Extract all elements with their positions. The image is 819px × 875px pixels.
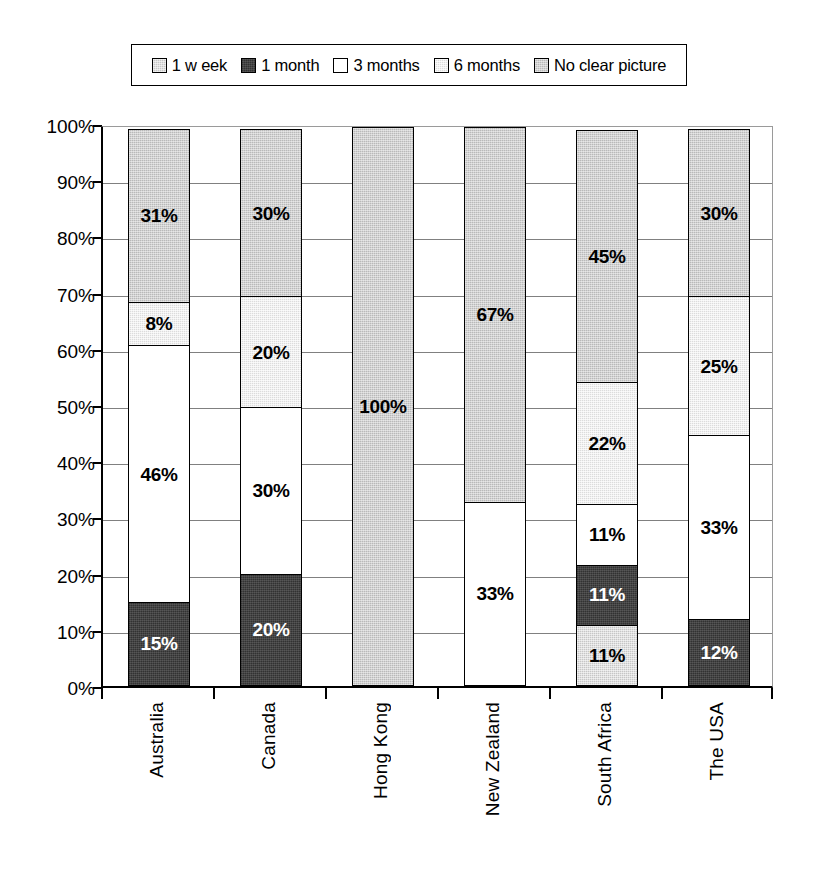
x-axis-tick-mark (549, 688, 551, 699)
legend-swatch-icon (333, 58, 348, 73)
bar-segment-value-label: 33% (700, 518, 737, 537)
x-axis-tick-mark (437, 688, 439, 699)
bar-segment[interactable]: 15% (128, 602, 190, 686)
x-axis-tick-mark (101, 688, 103, 699)
x-axis-tick-mark (771, 688, 773, 699)
bar-column-australia[interactable]: 15%46%8%31% (128, 127, 190, 686)
x-axis-category-label: Canada (259, 702, 278, 770)
x-axis-category-label: New Zealand (483, 702, 502, 816)
bar-segment-value-label: 15% (140, 634, 177, 653)
bar-segment-value-label: 30% (252, 204, 289, 223)
bar-segment-value-label: 20% (252, 620, 289, 639)
legend-swatch-icon (241, 58, 256, 73)
x-axis-category-label: Hong Kong (371, 702, 390, 799)
bar-segment-value-label: 11% (589, 646, 625, 665)
bar-segment-value-label: 8% (146, 314, 173, 333)
x-axis-tick-mark (325, 688, 327, 699)
gridline (103, 183, 772, 184)
legend-swatch-icon (534, 58, 549, 73)
bar-segment[interactable]: 30% (240, 129, 302, 298)
bar-segment-value-label: 30% (700, 204, 737, 223)
bar-segment[interactable]: 20% (240, 296, 302, 408)
legend-swatch-icon (152, 58, 167, 73)
bar-segment[interactable]: 100% (352, 127, 414, 686)
bar-segment[interactable]: 8% (128, 301, 190, 346)
bar-segment[interactable]: 33% (688, 435, 750, 620)
bar-segment-value-label: 31% (140, 206, 177, 225)
bar-segment-value-label: 33% (476, 584, 513, 603)
bar-segment[interactable]: 30% (240, 407, 302, 576)
gridline (103, 464, 772, 465)
legend-item-label: 6 months (454, 57, 520, 74)
legend-item-label: 1 month (261, 57, 319, 74)
gridline (103, 239, 772, 240)
gridline (103, 577, 772, 578)
bar-segment-value-label: 46% (140, 465, 177, 484)
bar-column-south-africa[interactable]: 11%11%11%22%45% (576, 127, 638, 686)
bar-column-hong-kong[interactable]: 100% (352, 127, 414, 686)
plot-area: 15%46%8%31%20%30%20%30%100%33%67%11%11%1… (101, 126, 773, 688)
bar-segment[interactable]: 20% (240, 574, 302, 686)
bar-column-canada[interactable]: 20%30%20%30% (240, 127, 302, 686)
legend-item-label: 1 w eek (172, 57, 227, 74)
bar-segment[interactable]: 12% (688, 619, 750, 686)
bar-segment-value-label: 22% (588, 434, 625, 453)
legend-item-month[interactable]: 1 month (241, 57, 319, 74)
gridline (103, 352, 772, 353)
legend-item-week[interactable]: 1 w eek (152, 57, 227, 74)
bar-segment[interactable]: 22% (576, 382, 638, 506)
bar-segment-value-label: 67% (476, 305, 513, 324)
legend-item-6months[interactable]: 6 months (434, 57, 520, 74)
bar-segment[interactable]: 25% (688, 296, 750, 437)
bar-segment-value-label: 30% (252, 481, 289, 500)
bar-segment[interactable]: 33% (464, 501, 526, 686)
bar-segment-value-label: 11% (589, 585, 625, 604)
x-axis-category-label: The USA (707, 702, 726, 781)
legend-swatch-icon (434, 58, 449, 73)
y-axis-tick-marks (0, 126, 110, 688)
bar-segment[interactable]: 30% (688, 129, 750, 298)
bar-column-new-zealand[interactable]: 33%67% (464, 127, 526, 686)
bar-segment[interactable]: 46% (128, 345, 190, 604)
gridline (103, 520, 772, 521)
legend-item-3months[interactable]: 3 months (333, 57, 419, 74)
bar-column-the-usa[interactable]: 12%33%25%30% (688, 127, 750, 686)
legend-item-label: No clear picture (554, 57, 666, 74)
x-axis-tick-mark (661, 688, 663, 699)
bar-segment-value-label: 45% (588, 247, 625, 266)
bar-segment[interactable]: 31% (128, 129, 190, 303)
gridline (103, 633, 772, 634)
bar-segment-value-label: 20% (252, 343, 289, 362)
bar-segment[interactable]: 45% (576, 130, 638, 383)
legend-item-label: 3 months (353, 57, 419, 74)
bar-segment-value-label: 11% (589, 525, 625, 544)
x-axis-category-labels: AustraliaCanadaHong KongNew ZealandSouth… (101, 702, 773, 867)
bar-segment[interactable]: 11% (576, 564, 638, 626)
x-axis-category-label: South Africa (595, 702, 614, 807)
legend-item-noclear[interactable]: No clear picture (534, 57, 666, 74)
x-axis-tick-mark (213, 688, 215, 699)
bar-segment-value-label: 100% (359, 397, 406, 416)
x-axis-tick-marks (101, 688, 773, 700)
x-axis-category-label: Australia (147, 702, 166, 778)
bar-segment[interactable]: 67% (464, 127, 526, 503)
bar-segment-value-label: 25% (700, 357, 737, 376)
bar-segment[interactable]: 11% (576, 624, 638, 686)
chart-legend: 1 w eek1 month3 months6 monthsNo clear p… (131, 44, 687, 86)
gridline (103, 408, 772, 409)
bar-segment-value-label: 12% (700, 643, 737, 662)
bar-segment[interactable]: 11% (576, 504, 638, 566)
gridline (103, 296, 772, 297)
